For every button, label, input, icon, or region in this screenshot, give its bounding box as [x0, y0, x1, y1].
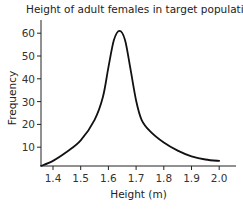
x-tick-label: 1.9	[183, 172, 200, 184]
chart-plot-area: 1020304050601.41.51.61.71.81.92.0	[0, 0, 243, 209]
y-tick-label: 60	[22, 27, 35, 39]
x-tick-label: 1.7	[128, 172, 145, 184]
y-tick-label: 30	[22, 96, 35, 108]
x-tick-label: 1.6	[100, 172, 117, 184]
data-series-line	[41, 31, 219, 166]
x-tick-label: 1.8	[155, 172, 172, 184]
x-tick-label: 1.5	[72, 172, 89, 184]
chart-axes	[41, 20, 236, 166]
y-tick-label: 50	[22, 50, 35, 62]
y-tick-label: 10	[22, 141, 35, 153]
y-tick-label: 20	[22, 118, 35, 130]
y-tick-label: 40	[22, 73, 35, 85]
x-tick-label: 2.0	[211, 172, 228, 184]
x-tick-label: 1.4	[45, 172, 62, 184]
